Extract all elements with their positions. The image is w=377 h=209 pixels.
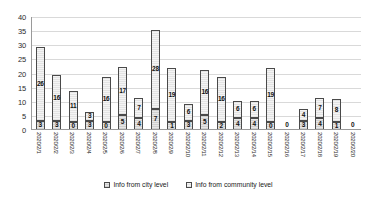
bar-segment-city[interactable]: 5 xyxy=(200,115,209,129)
x-axis-tick-slot: 2020/2/15 xyxy=(262,131,279,175)
bar-segment-community[interactable]: 6 xyxy=(250,101,259,118)
bar-segment-community[interactable]: 6 xyxy=(184,104,193,121)
bar-slot[interactable]: 287 xyxy=(147,17,163,129)
bar-slot[interactable]: 63 xyxy=(180,17,196,129)
bar-stack: 163 xyxy=(52,75,61,129)
bar-segment-community[interactable]: 19 xyxy=(167,68,176,122)
bar-slot[interactable]: 64 xyxy=(246,17,262,129)
bar-segment-community[interactable]: 16 xyxy=(217,77,226,122)
bar-segment-community[interactable]: 7 xyxy=(134,98,143,118)
bar-segment-community[interactable]: 26 xyxy=(36,47,45,120)
x-axis-tick-label: 2020/2/7 xyxy=(135,132,141,154)
x-axis-tick-slot: 2020/2/12 xyxy=(213,131,230,175)
y-axis-tick: 20 xyxy=(18,69,26,78)
x-axis-tick-slot: 2020/2/3 xyxy=(64,131,81,175)
bar-slot[interactable]: 0 xyxy=(279,17,295,129)
x-axis-tick-slot: 2020/2/8 xyxy=(147,131,164,175)
x-axis-tick-label: 2020/2/9 xyxy=(168,132,174,154)
bar-slot[interactable]: 0 xyxy=(345,17,361,129)
bar-slot[interactable]: 175 xyxy=(114,17,130,129)
x-axis-tick-label: 2020/2/15 xyxy=(267,132,273,157)
bar-stack: 165 xyxy=(200,70,209,129)
x-axis-tick-label: 2020/2/12 xyxy=(218,132,224,157)
bar-segment-city[interactable]: 4 xyxy=(233,118,242,129)
bar-slot[interactable]: 110 xyxy=(65,17,81,129)
bar-slot[interactable]: 190 xyxy=(262,17,278,129)
bar-segment-city[interactable]: 4 xyxy=(315,118,324,129)
bar-segment-city[interactable]: 4 xyxy=(134,118,143,129)
bar-segment-community[interactable]: 6 xyxy=(233,101,242,118)
bar-stack: 160 xyxy=(102,77,111,129)
x-axis-tick-slot: 2020/2/5 xyxy=(97,131,114,175)
bar-segment-city[interactable]: 0 xyxy=(69,122,78,129)
bar-stack: 64 xyxy=(233,101,242,129)
x-axis-tick-label: 2020/2/19 xyxy=(333,132,339,157)
bar-slot[interactable]: 165 xyxy=(197,17,213,129)
bar-segment-city[interactable]: 0 xyxy=(102,122,111,129)
bar-value-label: 3 xyxy=(55,122,58,129)
bar-segment-community[interactable]: 16 xyxy=(200,70,209,115)
bar-value-label: 2 xyxy=(220,123,223,130)
bar-value-label: 5 xyxy=(121,119,124,126)
bar-segment-community[interactable]: 28 xyxy=(151,30,160,109)
legend-label: Info from community level xyxy=(195,181,272,188)
bar-segment-city[interactable]: 3 xyxy=(85,121,94,129)
x-axis-tick-slot: 2020/2/16 xyxy=(279,131,296,175)
bar-slot[interactable]: 263 xyxy=(32,17,48,129)
x-axis-tick-label: 2020/2/18 xyxy=(317,132,323,157)
bar-slot[interactable]: 43 xyxy=(295,17,311,129)
bar-segment-city[interactable]: 3 xyxy=(299,121,308,129)
bar-segment-community[interactable]: 16 xyxy=(102,77,111,122)
bar-value-label: 1 xyxy=(335,123,338,130)
bar-slot[interactable]: 81 xyxy=(328,17,344,129)
bar-value-label: 6 xyxy=(252,106,255,113)
bar-segment-community[interactable]: 4 xyxy=(299,109,308,120)
bar-value-label: 5 xyxy=(203,119,206,126)
bar-slot[interactable]: 162 xyxy=(213,17,229,129)
bar-segment-city[interactable]: 5 xyxy=(118,115,127,129)
bar-value-label: 0 xyxy=(351,122,355,129)
y-axis-tick: 0 xyxy=(22,126,26,135)
x-axis-tick-label: 2020/2/20 xyxy=(350,132,356,157)
bar-segment-community[interactable]: 17 xyxy=(118,67,127,115)
x-axis-tick-slot: 2020/2/11 xyxy=(196,131,213,175)
bar-slot[interactable]: 191 xyxy=(164,17,180,129)
bar-segment-community[interactable]: 8 xyxy=(332,99,341,122)
bar-slot[interactable]: 160 xyxy=(98,17,114,129)
legend-item-community[interactable]: Info from community level xyxy=(186,181,272,188)
bar-segment-community[interactable]: 3 xyxy=(85,112,94,120)
bar-slot[interactable]: 33 xyxy=(81,17,97,129)
x-axis-tick-label: 2020/2/5 xyxy=(102,132,108,154)
bar-stack: 287 xyxy=(151,30,160,129)
bar-segment-city[interactable]: 3 xyxy=(184,121,193,129)
y-axis: 0510152025303540 xyxy=(0,17,29,130)
chart-legend: Info from city levelInfo from community … xyxy=(0,181,377,188)
x-axis-tick-label: 2020/2/11 xyxy=(201,132,207,156)
bar-slot[interactable]: 163 xyxy=(48,17,64,129)
bar-segment-city[interactable]: 1 xyxy=(167,122,176,129)
bar-slot[interactable]: 64 xyxy=(229,17,245,129)
bar-segment-city[interactable]: 0 xyxy=(266,122,275,129)
bar-segment-city[interactable]: 4 xyxy=(250,118,259,129)
bar-stack: 162 xyxy=(217,77,226,129)
bar-segment-city[interactable]: 1 xyxy=(332,122,341,129)
bar-segment-city[interactable]: 7 xyxy=(151,109,160,129)
x-axis-tick-slot: 2020/2/2 xyxy=(48,131,65,175)
bar-slot[interactable]: 74 xyxy=(312,17,328,129)
bar-segment-community[interactable]: 7 xyxy=(315,98,324,118)
bar-segment-city[interactable]: 3 xyxy=(36,121,45,129)
bar-value-label: 4 xyxy=(137,121,140,128)
bar-value-label: 4 xyxy=(252,121,255,128)
x-axis-tick-slot: 2020/2/9 xyxy=(163,131,180,175)
legend-item-city[interactable]: Info from city level xyxy=(104,181,168,188)
y-axis-tick: 35 xyxy=(18,27,26,36)
bar-segment-community[interactable]: 19 xyxy=(266,68,275,122)
x-axis-tick-label: 2020/2/8 xyxy=(152,132,158,154)
bar-slot[interactable]: 74 xyxy=(131,17,147,129)
bar-segment-city[interactable]: 3 xyxy=(52,121,61,129)
bar-value-label: 16 xyxy=(53,95,60,102)
bar-segment-community[interactable]: 11 xyxy=(69,91,78,122)
bar-stack: 175 xyxy=(118,67,127,129)
bar-segment-community[interactable]: 16 xyxy=(52,75,61,120)
bar-segment-city[interactable]: 2 xyxy=(217,122,226,129)
